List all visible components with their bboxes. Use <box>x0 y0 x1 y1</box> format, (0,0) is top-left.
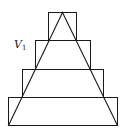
volume-label: V1 <box>14 39 26 52</box>
rectangle-step-4-bottom <box>9 98 118 126</box>
volume-label-main: V <box>14 38 22 51</box>
step-rectangles <box>9 13 118 126</box>
stepped-pyramid-diagram <box>0 0 124 131</box>
rectangle-step-1-top <box>49 13 77 41</box>
rectangle-step-2 <box>36 41 91 70</box>
volume-label-subscript: 1 <box>22 44 26 52</box>
rectangle-step-3 <box>23 70 104 98</box>
